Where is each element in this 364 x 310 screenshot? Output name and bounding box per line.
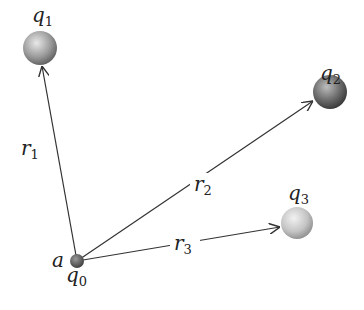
charge-diagram: q1 q2 q3 q0 a r1 r2 r3 [0, 0, 364, 310]
vector-r1 [42, 66, 77, 261]
label-point-a: a [52, 248, 64, 272]
label-q0: q0 [66, 263, 87, 289]
label-q3: q3 [288, 181, 309, 207]
label-q2: q2 [320, 61, 341, 87]
charge-q1-sphere [23, 31, 57, 65]
label-q1: q1 [32, 3, 53, 29]
charge-q3-sphere [281, 207, 313, 239]
